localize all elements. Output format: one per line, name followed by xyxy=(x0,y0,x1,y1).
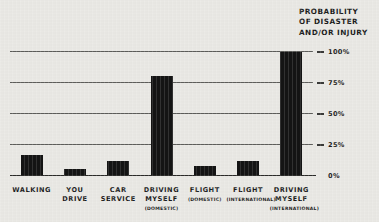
x-axis-baseline xyxy=(10,175,316,176)
chart-title: PROBABILITY OF DISASTER AND/OR INJURY xyxy=(299,7,379,38)
x-axis-label-line: FLIGHT xyxy=(226,186,269,195)
y-tick-mark-75 xyxy=(317,82,324,84)
x-axis-label-line: MYSELF xyxy=(270,195,313,204)
y-tick-mark-25 xyxy=(317,144,324,146)
gridline-100 xyxy=(10,51,313,52)
x-axis-label-sublabel: (INTERNATIONAL) xyxy=(270,205,313,213)
y-tick-label-25: 25% xyxy=(328,141,345,149)
x-axis-label: CARSERVICE xyxy=(97,186,140,204)
y-tick-mark-100 xyxy=(317,51,324,53)
y-tick-label-50: 50% xyxy=(328,110,345,118)
x-axis-label: WALKING xyxy=(10,186,53,195)
x-axis-label: DRIVINGMYSELF(DOMESTIC) xyxy=(140,186,183,213)
x-axis-label: FLIGHT(INTERNATIONAL) xyxy=(226,186,269,204)
x-axis-label-sublabel: (INTERNATIONAL) xyxy=(226,196,269,204)
y-tick-label-75: 75% xyxy=(328,79,345,87)
x-axis-label-line: FLIGHT xyxy=(183,186,226,195)
x-axis-label-line: DRIVING xyxy=(270,186,313,195)
chart-title-line-1: PROBABILITY xyxy=(299,7,379,17)
x-axis-label-line: WALKING xyxy=(10,186,53,195)
bar xyxy=(280,52,302,176)
plot-area xyxy=(10,52,313,176)
x-axis-label-line: MYSELF xyxy=(140,195,183,204)
x-axis-label-line: DRIVING xyxy=(140,186,183,195)
x-axis-label-line: YOU xyxy=(53,186,96,195)
x-axis-label: YOUDRIVE xyxy=(53,186,96,204)
bar-chart: PROBABILITY OF DISASTER AND/OR INJURY 0%… xyxy=(0,0,379,222)
bar xyxy=(21,155,43,176)
x-axis-label-line: DRIVE xyxy=(53,195,96,204)
y-tick-label-100: 100% xyxy=(328,48,350,56)
x-axis-label: DRIVINGMYSELF(INTERNATIONAL) xyxy=(270,186,313,213)
x-axis-label: FLIGHT(DOMESTIC) xyxy=(183,186,226,204)
x-axis-label-line: SERVICE xyxy=(97,195,140,204)
chart-title-line-3: AND/OR INJURY xyxy=(299,28,379,38)
chart-title-line-2: OF DISASTER xyxy=(299,17,379,27)
x-axis-label-sublabel: (DOMESTIC) xyxy=(183,196,226,204)
x-axis-label-sublabel: (DOMESTIC) xyxy=(140,205,183,213)
y-tick-label-0: 0% xyxy=(328,172,340,180)
x-axis-label-line: CAR xyxy=(97,186,140,195)
bar xyxy=(151,76,173,176)
y-tick-mark-50 xyxy=(317,113,324,115)
